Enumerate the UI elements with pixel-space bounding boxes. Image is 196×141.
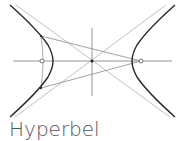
right-focus-point [139, 59, 143, 63]
diagram-caption: Hyperbel [9, 117, 100, 141]
left-focus-point [40, 59, 44, 63]
construction-line-1 [41, 36, 141, 61]
construction-line-2 [41, 61, 141, 88]
construction-point-top [40, 35, 42, 37]
center-point [91, 60, 94, 63]
construction-point-bottom [40, 87, 42, 89]
